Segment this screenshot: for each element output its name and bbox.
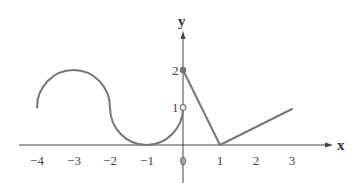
- y-axis-arrow-icon: [181, 31, 186, 39]
- y-tick-label-2: 2: [172, 63, 179, 78]
- x-axis-label: x: [337, 137, 345, 153]
- upper-semicircle: [37, 70, 110, 107]
- x-tick-label: 0: [180, 153, 187, 168]
- x-axis-arrow-icon: [325, 143, 333, 148]
- x-tick-label: −2: [103, 153, 117, 168]
- x-tick-label: 3: [289, 153, 296, 168]
- line-segment-down: [183, 70, 220, 145]
- closed-point: [180, 67, 186, 73]
- x-tick-label: −1: [140, 153, 154, 168]
- graph-curves: [37, 70, 292, 145]
- y-axis-label: y: [178, 13, 186, 29]
- x-tick-label: 1: [217, 153, 224, 168]
- y-tick-label-1: 1: [172, 100, 179, 115]
- line-segment-up: [220, 109, 292, 145]
- x-tick-label: −3: [67, 153, 81, 168]
- x-tick-label: 2: [253, 153, 260, 168]
- x-tick-labels: −4 −3 −2 −1 0 1 2 3: [30, 153, 295, 168]
- x-tick-label: −4: [30, 153, 44, 168]
- open-point: [180, 105, 186, 111]
- function-graph: x y −4 −3 −2 −1 0 1 2 3 2 1: [0, 0, 360, 190]
